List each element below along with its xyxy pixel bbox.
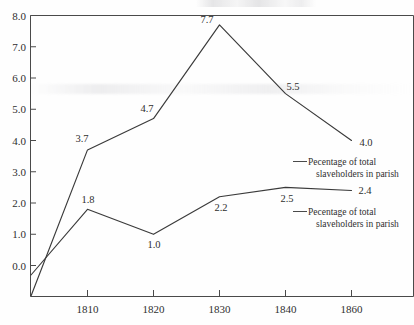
series-upper-line (31, 25, 352, 296)
point-label: 4.7 (140, 103, 153, 114)
y-tick-marks (31, 16, 37, 266)
point-label: 5.5 (286, 81, 299, 92)
x-tick-label: 1810 (77, 303, 100, 315)
point-label: 2.4 (358, 185, 372, 196)
x-tick-marks (88, 290, 352, 297)
y-tick-label: 8.0 (12, 10, 26, 22)
y-tick-label: 0.0 (12, 260, 26, 272)
y-tick-label: 3.0 (12, 166, 26, 178)
y-tick-label: 5.0 (12, 103, 26, 115)
point-label: 1.8 (81, 194, 94, 205)
line-chart: 8.0 7.0 6.0 5.0 4.0 3.0 2.0 1.0 0.0 1810… (0, 0, 414, 325)
x-tick-label: 1830 (209, 303, 232, 315)
point-label: 3.7 (75, 133, 88, 144)
x-tick-label: 1840 (275, 303, 298, 315)
y-tick-label: 7.0 (12, 41, 26, 53)
upper-series-point-labels: 3.7 4.7 7.7 5.5 4.0 (75, 14, 372, 148)
y-tick-label: 2.0 (12, 197, 26, 209)
legend-label-line1: Pecentage of total (308, 157, 376, 167)
lower-series-point-labels: 1.8 1.0 2.2 2.5 2.4 (81, 185, 372, 250)
point-label: 2.2 (214, 202, 227, 213)
x-tick-label: 1860 (341, 303, 364, 315)
point-label: 4.0 (359, 137, 372, 148)
series-lower-line (31, 187, 352, 275)
y-tick-label: 1.0 (12, 228, 26, 240)
x-tick-label: 1820 (143, 303, 166, 315)
point-label: 2.5 (280, 193, 293, 204)
legend-entry-lower[interactable]: Pecentage of total slaveholders in paris… (293, 207, 399, 229)
legend-label-line2: slaveholders in parish (316, 169, 399, 179)
y-tick-label: 4.0 (12, 135, 26, 147)
legend-label-line1: Pecentage of total (308, 207, 376, 217)
chart-figure: 8.0 7.0 6.0 5.0 4.0 3.0 2.0 1.0 0.0 1810… (0, 0, 414, 325)
y-axis-tick-labels: 8.0 7.0 6.0 5.0 4.0 3.0 2.0 1.0 0.0 (12, 10, 26, 272)
point-label: 1.0 (147, 239, 160, 250)
legend-entry-upper[interactable]: Pecentage of total slaveholders in paris… (293, 157, 399, 179)
y-tick-label: 6.0 (12, 72, 26, 84)
legend-label-line2: slaveholders in parish (316, 219, 399, 229)
point-label: 7.7 (200, 14, 213, 25)
x-axis-tick-labels: 1810 1820 1830 1840 1860 (77, 303, 364, 315)
